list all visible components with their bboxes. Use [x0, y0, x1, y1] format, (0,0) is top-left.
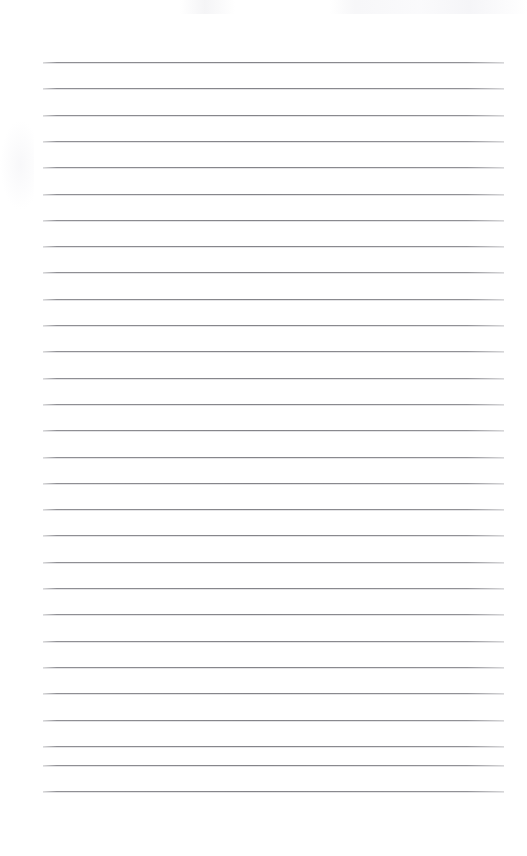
rule-line	[43, 765, 504, 766]
rule-line	[43, 588, 504, 589]
rule-line	[43, 62, 504, 63]
rule-line	[43, 562, 504, 563]
rule-line	[43, 351, 504, 352]
rule-line	[43, 641, 504, 642]
rule-line	[43, 246, 504, 247]
rule-line	[43, 325, 504, 326]
rule-line	[43, 535, 504, 536]
rule-line	[43, 299, 504, 300]
rule-line	[43, 88, 504, 89]
rule-line	[43, 404, 504, 405]
rule-line	[43, 667, 504, 668]
rule-line	[43, 720, 504, 721]
rule-line	[43, 614, 504, 615]
rule-line	[43, 693, 504, 694]
rule-line	[43, 141, 504, 142]
rule-line	[43, 272, 504, 273]
rule-line	[43, 115, 504, 116]
rule-line	[43, 378, 504, 379]
rule-line	[43, 746, 504, 747]
rule-line	[43, 194, 504, 195]
rule-line	[43, 483, 504, 484]
rule-line	[43, 220, 504, 221]
paper-page	[0, 0, 527, 856]
rule-line	[43, 509, 504, 510]
rule-line	[43, 457, 504, 458]
paper-tone-artifact-left	[0, 120, 34, 210]
rule-line	[43, 791, 504, 792]
rule-line	[43, 167, 504, 168]
scan-noise-artifact-top	[0, 0, 527, 14]
rule-line	[43, 430, 504, 431]
